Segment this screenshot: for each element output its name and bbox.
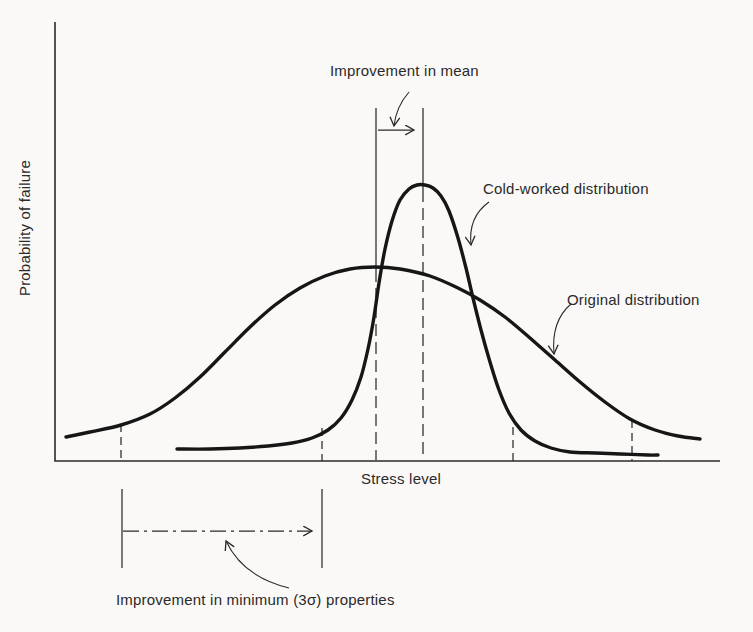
leader-improvement-mean (394, 92, 409, 126)
failure-probability-figure: Probability of failure Stress level Impr… (0, 0, 753, 632)
figure-canvas (0, 0, 753, 632)
annotation-improvement-in-mean: Improvement in mean (330, 62, 479, 79)
series-label-cold-worked-distribution: Cold-worked distribution (483, 180, 649, 197)
leader-original (554, 304, 571, 354)
leader-cold-worked (471, 202, 489, 245)
series-label-original-distribution: Original distribution (567, 291, 700, 308)
x-axis-label: Stress level (361, 470, 441, 487)
y-axis-label: Probability of failure (16, 160, 33, 296)
curve-cold-worked-distribution (177, 185, 658, 456)
annotation-improvement-in-minimum: Improvement in minimum (3σ) properties (116, 591, 395, 608)
leader-improvement-min (226, 541, 289, 588)
